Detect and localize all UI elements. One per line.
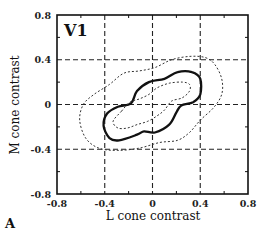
y-tick-label: 0.8 <box>34 10 51 21</box>
x-tick-labels: -0.8-0.400.40.8 <box>47 198 257 209</box>
y-tick-label: -0.4 <box>31 144 52 155</box>
y-tick-label: 0.4 <box>34 54 51 65</box>
x-tick-label: 0.4 <box>192 198 209 209</box>
x-axis-title: L cone contrast <box>106 209 201 223</box>
x-tick-label: 0.8 <box>240 198 257 209</box>
y-tick-labels: 0.80.40-0.4-0.8 <box>31 10 52 200</box>
x-tick-label: -0.8 <box>47 198 68 209</box>
y-axis-title: M cone contrast <box>8 55 22 154</box>
y-tick-label: 0 <box>44 99 51 110</box>
x-tick-label: 0 <box>149 198 156 209</box>
chart: -0.8-0.400.40.8 0.80.40-0.4-0.8 V1 L con… <box>0 0 262 234</box>
panel-title: V1 <box>63 21 88 40</box>
outer-contour <box>80 56 223 150</box>
x-tick-label: -0.4 <box>95 198 116 209</box>
grid-lines <box>57 15 248 194</box>
panel-label: A <box>4 216 16 231</box>
y-tick-label: -0.8 <box>31 189 52 200</box>
contour-curves <box>80 56 223 150</box>
